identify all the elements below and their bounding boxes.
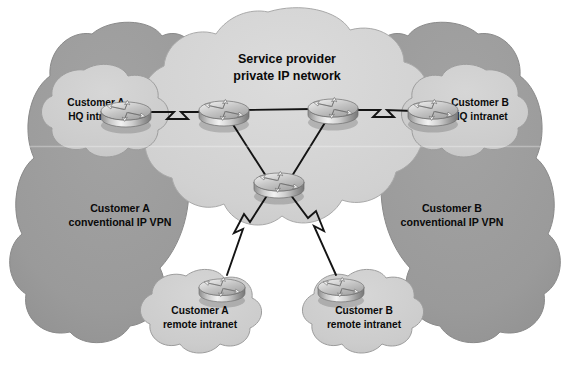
customer-a-vpn-label-line2: conventional IP VPN (69, 216, 172, 228)
customer-a-vpn-label-line1: Customer A (90, 202, 150, 214)
site-customer-b-remote: Customer B remote intranet (302, 269, 423, 353)
customer-b-hq-label-line1: Customer B (451, 97, 509, 108)
customer-b-remote-label-line2: remote intranet (327, 319, 402, 330)
router-core-left[interactable] (199, 99, 249, 132)
link-core-left-to-core-right (245, 109, 312, 110)
router-customer-b-hq[interactable] (408, 99, 458, 132)
router-core-bottom[interactable] (254, 171, 304, 204)
customer-a-remote-label-line2: remote intranet (163, 319, 238, 330)
router-core-right[interactable] (308, 97, 358, 130)
service-provider-title-line1: Service provider (238, 52, 336, 66)
router-customer-b-remote[interactable] (318, 277, 364, 307)
customer-b-vpn-label-line2: conventional IP VPN (401, 216, 504, 228)
service-provider-title-line2: private IP network (233, 69, 340, 83)
customer-b-vpn-label-line1: Customer B (422, 202, 482, 214)
site-customer-a-remote: Customer A remote intranet (140, 269, 261, 353)
router-customer-a-hq[interactable] (101, 100, 151, 133)
network-diagram: Customer A conventional IP VPN Customer … (0, 0, 570, 381)
router-customer-a-remote[interactable] (199, 277, 245, 307)
customer-b-hq-label-line2: HQ intranet (452, 111, 508, 122)
diagram-canvas: Customer A conventional IP VPN Customer … (0, 0, 570, 381)
